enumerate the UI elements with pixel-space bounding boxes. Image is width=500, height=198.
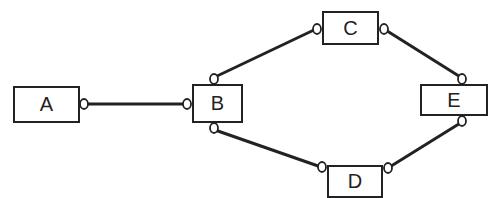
edge-d-e <box>388 122 462 168</box>
edge-b-d <box>215 130 321 167</box>
node-e: E <box>420 84 488 116</box>
port-c-left <box>313 24 321 34</box>
port-d-left <box>318 162 326 172</box>
edge-b-c <box>215 29 316 77</box>
node-d: D <box>327 165 383 198</box>
node-b: B <box>192 84 243 123</box>
port-d-right <box>384 163 392 173</box>
node-a: A <box>13 86 80 123</box>
port-b-top <box>210 74 218 84</box>
port-a-right <box>80 99 88 109</box>
node-c-label: C <box>343 17 357 40</box>
node-d-label: D <box>348 170 362 193</box>
edge-c-e <box>384 29 462 78</box>
port-b-bottom <box>210 123 218 133</box>
node-e-label: E <box>447 89 460 112</box>
node-a-label: A <box>40 93 53 116</box>
node-c: C <box>322 11 379 45</box>
port-c-right <box>380 24 388 34</box>
node-b-label: B <box>211 92 224 115</box>
port-e-top <box>458 74 466 84</box>
port-b-left <box>183 99 191 109</box>
port-e-bottom <box>458 116 466 126</box>
